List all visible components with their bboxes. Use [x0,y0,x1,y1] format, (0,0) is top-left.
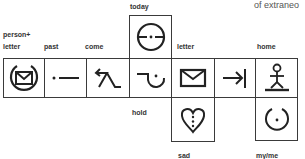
open-circle-dot-icon [262,104,292,134]
symbol-cell-home [255,58,298,98]
label-home: home [257,42,276,51]
symbol-cell-my-me [255,97,298,141]
hook-cup-dot-icon [134,66,168,90]
label-today: today [130,2,149,11]
symbol-cell-come [86,58,130,98]
symbol-cell-sad [171,97,215,142]
symbol-cell-to [214,58,256,98]
symbol-cell-hold [129,58,172,98]
label-past: past [44,42,58,51]
header-text-fragment: of extraneo [254,0,299,10]
label-come: come [85,42,103,51]
envelope-in-circle-icon [7,61,41,95]
arrow-to-bar-icon [218,65,252,91]
arrow-figure-icon [91,61,125,95]
symbol-cell-letter [171,58,215,98]
symbol-cell-past [44,58,87,98]
dot-dash-icon [49,68,83,88]
symbol-cell-person-letter [3,58,45,98]
label-letter: letter [177,42,194,51]
heart-dotted-icon [177,104,209,136]
label-my-me: my/me [256,151,278,159]
label-person-letter-line2: letter [3,42,20,51]
label-person-letter-line1: person+ [3,30,30,39]
stick-person-on-ground-icon [260,61,294,95]
label-sad: sad [178,151,190,159]
label-hold: hold [132,108,147,117]
symbol-cell-today [129,15,172,59]
envelope-icon [176,65,210,91]
circle-bar-dot-icon [134,20,168,54]
